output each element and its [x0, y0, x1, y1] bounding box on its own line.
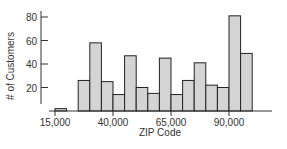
histogram-bar [136, 88, 148, 112]
y-tick-label: 20 [26, 83, 38, 94]
histogram-bar [159, 58, 171, 111]
histogram-bar [148, 93, 160, 111]
histogram-bar [78, 80, 90, 111]
y-tick-label: 80 [26, 12, 38, 23]
histogram-bar [90, 43, 102, 111]
histogram-bar [194, 63, 206, 111]
x-axis: 15,00040,00065,00090,000 [40, 111, 272, 128]
histogram-bar [241, 53, 253, 111]
x-tick-label: 40,000 [98, 117, 129, 128]
y-axis-title: # of Customers [5, 32, 16, 100]
y-axis: 20406080 [26, 11, 48, 104]
y-tick-label: 40 [26, 59, 38, 70]
histogram-bar [101, 82, 113, 111]
x-tick-label: 90,000 [214, 117, 245, 128]
histogram-bar [206, 85, 218, 111]
histogram-bar [113, 95, 125, 111]
histogram-bar [125, 56, 137, 111]
histogram-chart: 20406080 15,00040,00065,00090,000 ZIP Co… [0, 0, 287, 149]
histogram-bar [183, 80, 195, 111]
histogram-bar [217, 88, 229, 112]
x-axis-title: ZIP Code [139, 127, 181, 138]
x-tick-label: 15,000 [40, 117, 71, 128]
bars-group [55, 16, 252, 111]
y-tick-label: 60 [26, 36, 38, 47]
histogram-bar [171, 95, 183, 111]
histogram-bar [229, 16, 241, 111]
